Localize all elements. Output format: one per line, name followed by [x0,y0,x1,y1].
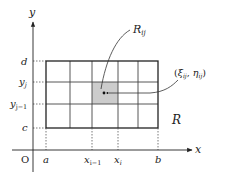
x-tick-a: a [43,154,49,165]
origin-label: O [21,154,29,165]
dotted-guides [33,61,158,150]
sample-point-label: (ξij, ηij) [174,67,206,80]
y-tick-c: c [22,122,28,133]
y-tick-y-j-minus-1: yj−1 [9,98,27,111]
x-tick-x-i-minus-1: xi−1 [84,154,101,167]
subregion-label: Rij [132,23,147,37]
sample-point [103,92,106,95]
riemann-sum-diagram: y x O a xi−1 xi b d yj yj−1 c Rij (ξij, … [0,0,225,180]
x-axis-label: x [195,143,202,156]
pointer-start-dot [107,92,109,94]
subregion-leader-curve [101,30,130,89]
x-tick-b: b [155,154,161,165]
y-tick-d: d [21,56,27,67]
x-tick-x-i: xi [114,154,122,167]
y-axis-label: y [28,6,36,19]
region-label: R [171,113,181,127]
y-tick-y-j: yj [18,76,27,89]
